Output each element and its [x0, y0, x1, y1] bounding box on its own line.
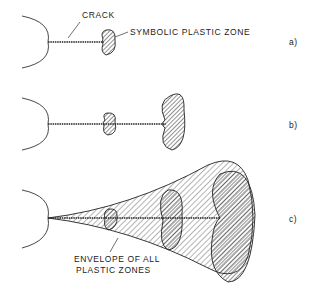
- zone-leader: [115, 32, 128, 37]
- panel-b-tag: b): [289, 120, 298, 130]
- panel-a-tag: a): [289, 37, 298, 47]
- envelope-label-line2: PLASTIC ZONES: [76, 265, 151, 275]
- crack-plastic-zone-diagram: CRACK SYMBOLIC PLASTIC ZONE a) b) c) ENV…: [0, 0, 314, 297]
- crack-leader: [68, 22, 80, 38]
- notch-arc: [22, 16, 48, 68]
- envelope-label-line1: ENVELOPE OF ALL: [74, 254, 160, 264]
- diagram-canvas: [0, 0, 314, 297]
- plastic-zone-3: [211, 171, 255, 282]
- panel-c-tag: c): [289, 214, 297, 224]
- plastic-zone-small: [103, 113, 115, 135]
- notch-arc: [22, 98, 48, 150]
- plastic-zone-large: [162, 94, 185, 150]
- plastic-zone-a: [102, 30, 115, 55]
- crack-label: CRACK: [82, 10, 115, 20]
- envelope-leader: [110, 238, 118, 252]
- notch-arc: [22, 190, 48, 248]
- plastic-zone-2: [160, 190, 182, 250]
- panel-a: [22, 16, 128, 68]
- panel-b: [22, 94, 185, 150]
- symbolic-plastic-zone-label: SYMBOLIC PLASTIC ZONE: [130, 27, 250, 37]
